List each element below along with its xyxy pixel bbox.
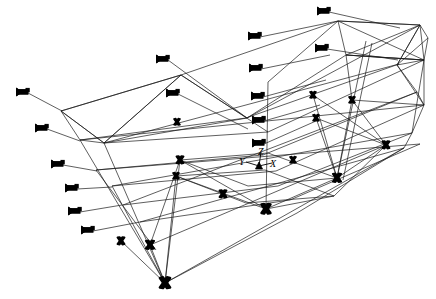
top-deck-outer-edge bbox=[61, 21, 420, 111]
load-marker-6 bbox=[82, 226, 95, 234]
load-marker-1-leader bbox=[28, 93, 62, 111]
frame-members-group bbox=[61, 21, 428, 283]
node-right-upper-b bbox=[313, 115, 319, 121]
load-marker-5 bbox=[69, 207, 82, 215]
frame-polylines-group bbox=[61, 21, 428, 283]
diag-long-8 bbox=[150, 145, 386, 245]
deck-plate-lower bbox=[176, 170, 334, 203]
left-leg-c bbox=[120, 240, 165, 283]
node-left-mid bbox=[146, 241, 154, 249]
load-marker-7 bbox=[157, 55, 170, 63]
node-chord-left bbox=[174, 119, 180, 125]
brace-26 bbox=[181, 75, 268, 132]
lower-chord-long-b bbox=[112, 105, 424, 186]
load-marker-1 bbox=[17, 88, 30, 96]
load-marker-4-leader bbox=[77, 187, 112, 189]
load-marker-2-leader bbox=[47, 129, 80, 141]
node-right-low bbox=[333, 174, 341, 182]
vertical-post-center bbox=[266, 82, 268, 209]
left-leg-b bbox=[80, 140, 165, 283]
load-marker-15 bbox=[316, 44, 329, 52]
load-marker-7-leader bbox=[168, 60, 247, 118]
load-marker-10-leader bbox=[261, 55, 330, 69]
lower-chord-long-a bbox=[96, 92, 417, 170]
load-marker-2 bbox=[36, 124, 49, 132]
node-left-low bbox=[118, 237, 125, 244]
brace-7 bbox=[266, 178, 337, 209]
node-deck-mid bbox=[290, 157, 296, 163]
bottom-chord-long-a bbox=[123, 133, 412, 205]
node-apex-bottom bbox=[160, 277, 170, 288]
load-marker-8 bbox=[167, 89, 180, 97]
brace-4 bbox=[165, 176, 176, 283]
x-axis-label: X bbox=[270, 159, 276, 169]
load-marker-4 bbox=[66, 184, 79, 192]
brace-24 bbox=[268, 21, 338, 82]
load-marker-10 bbox=[250, 64, 263, 72]
brace-21 bbox=[346, 55, 424, 60]
z-axis-label: Z bbox=[258, 147, 264, 157]
y-axis-label: Y bbox=[239, 157, 245, 167]
load-marker-9 bbox=[249, 32, 262, 40]
load-marker-3 bbox=[52, 160, 65, 168]
brace-9 bbox=[313, 95, 337, 178]
load-marker-3-leader bbox=[63, 165, 97, 171]
load-marker-5-leader bbox=[80, 205, 122, 212]
load-marker-14-leader bbox=[329, 12, 400, 28]
structural-wireframe-figure: Y Z X bbox=[0, 0, 436, 299]
left-leg-a bbox=[104, 143, 165, 283]
brace-18 bbox=[412, 60, 424, 133]
load-marker-14 bbox=[318, 7, 331, 15]
wireframe-canvas bbox=[0, 0, 436, 299]
load-marker-11 bbox=[252, 92, 265, 100]
left-fan-b bbox=[61, 75, 181, 111]
load-marker-12 bbox=[253, 116, 266, 124]
left-leg-d bbox=[96, 170, 156, 250]
node-right-far bbox=[383, 141, 390, 148]
load-marker-11-leader bbox=[263, 80, 326, 97]
